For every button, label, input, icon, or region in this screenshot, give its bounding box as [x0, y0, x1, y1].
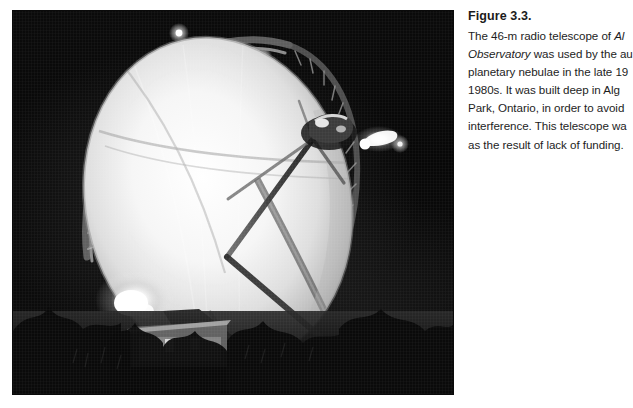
caption-line-3: planetary nebulae in the late 19	[468, 63, 633, 81]
caption-text-run: Park, Ontario, in order to avoid	[468, 101, 624, 114]
caption-italic-run: Al	[614, 29, 624, 42]
caption-line-7: as the result of lack of funding.	[468, 136, 633, 154]
caption-text-run: The 46-m radio telescope of	[468, 29, 614, 42]
caption-line-2: Observatory was used by the au	[468, 45, 633, 63]
figure-caption-body: The 46-m radio telescope of Al Observato…	[468, 27, 633, 154]
photo-grain-texture	[13, 11, 453, 394]
caption-line-4: 1980s. It was built deep in Alg	[468, 81, 633, 99]
caption-text-run: was used by the au	[531, 47, 633, 60]
caption-italic-run: Observatory	[468, 47, 531, 60]
caption-line-6: interference. This telescope wa	[468, 117, 633, 135]
figure-photo	[13, 11, 453, 394]
figure-caption: Figure 3.3. The 46-m radio telescope of …	[468, 8, 633, 154]
caption-line-1: The 46-m radio telescope of Al	[468, 27, 633, 45]
figure-label: Figure 3.3.	[468, 8, 633, 24]
caption-text-run: as the result of lack of funding.	[468, 138, 624, 151]
caption-text-run: interference. This telescope wa	[468, 119, 627, 132]
caption-line-5: Park, Ontario, in order to avoid	[468, 99, 633, 117]
caption-text-run: planetary nebulae in the late 19	[468, 65, 628, 78]
caption-text-run: 1980s. It was built deep in Alg	[468, 83, 620, 96]
